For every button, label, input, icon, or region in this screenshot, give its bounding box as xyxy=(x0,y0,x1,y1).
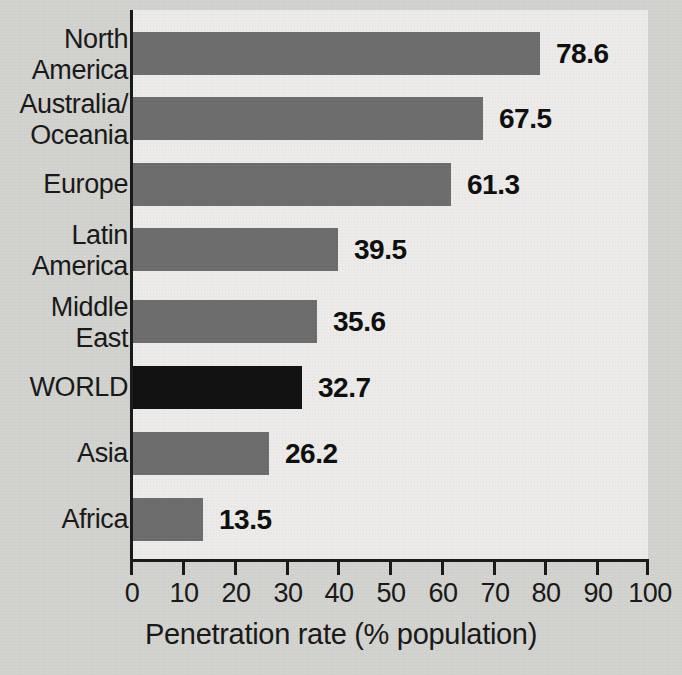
bar-australia-oceania xyxy=(133,97,483,140)
x-tick-label-40: 40 xyxy=(309,578,369,609)
x-tick-80 xyxy=(544,562,547,575)
x-tick-50 xyxy=(389,562,392,575)
x-tick-label-90: 90 xyxy=(568,578,628,609)
x-tick-0 xyxy=(130,562,133,575)
bar-africa xyxy=(133,498,203,541)
value-label-australia-oceania: 67.5 xyxy=(499,103,552,135)
x-tick-60 xyxy=(441,562,444,575)
x-axis-title: Penetration rate (% population) xyxy=(0,618,682,651)
plot-area xyxy=(132,10,648,560)
value-label-middle-east: 35.6 xyxy=(333,306,386,338)
value-label-europe: 61.3 xyxy=(467,169,520,201)
x-tick-70 xyxy=(493,562,496,575)
value-label-asia: 26.2 xyxy=(285,438,338,470)
value-label-world: 32.7 xyxy=(318,372,371,404)
x-tick-label-50: 50 xyxy=(361,578,421,609)
category-label-world: WORLD xyxy=(30,372,129,403)
category-label-australia-oceania: Australia/ Oceania xyxy=(19,89,128,151)
value-label-latin-america: 39.5 xyxy=(354,234,407,266)
x-tick-20 xyxy=(234,562,237,575)
y-axis-line xyxy=(130,10,133,561)
x-tick-label-20: 20 xyxy=(206,578,266,609)
value-label-north-america: 78.6 xyxy=(556,38,609,70)
x-tick-40 xyxy=(337,562,340,575)
x-tick-label-0: 0 xyxy=(102,578,162,609)
bar-latin-america xyxy=(133,228,338,271)
bar-middle-east xyxy=(133,300,317,343)
x-tick-10 xyxy=(182,562,185,575)
category-label-north-america: North America xyxy=(32,24,128,86)
category-label-africa: Africa xyxy=(61,504,128,535)
x-tick-30 xyxy=(286,562,289,575)
category-label-europe: Europe xyxy=(43,169,128,200)
x-tick-label-80: 80 xyxy=(516,578,576,609)
x-tick-90 xyxy=(596,562,599,575)
bar-asia xyxy=(133,432,269,475)
bar-europe xyxy=(133,163,451,206)
bar-north-america xyxy=(133,32,540,75)
x-tick-label-100: 100 xyxy=(620,578,680,609)
bar-chart: North America Australia/ Oceania Europe … xyxy=(0,0,682,675)
x-tick-label-10: 10 xyxy=(154,578,214,609)
x-tick-label-60: 60 xyxy=(413,578,473,609)
category-label-latin-america: Latin America xyxy=(32,220,128,282)
category-label-asia: Asia xyxy=(77,438,128,469)
value-label-africa: 13.5 xyxy=(219,504,272,536)
bar-world xyxy=(133,366,302,409)
x-tick-100 xyxy=(646,562,649,575)
category-label-middle-east: Middle East xyxy=(51,292,128,354)
